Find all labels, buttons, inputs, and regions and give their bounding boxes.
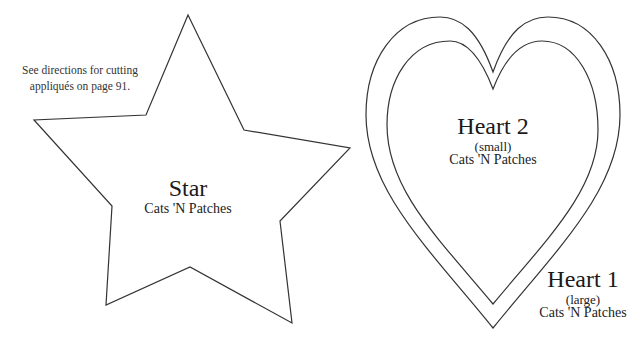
heart-2-label: Heart 2 (small) Cats 'N Patches [423,114,563,167]
star-subtitle: Cats 'N Patches [118,202,258,216]
star-label: Star Cats 'N Patches [118,176,258,216]
heart-1-subtitle: Cats 'N Patches [523,306,643,320]
heart-1-label: Heart 1 (large) Cats 'N Patches [523,267,643,320]
heart-2-title: Heart 2 [423,114,563,138]
cutting-directions-note: See directions for cutting appliqués on … [10,62,150,94]
heart-2-subtitle: Cats 'N Patches [423,153,563,167]
heart-2-outline [387,41,598,304]
note-line-1: See directions for cutting [10,62,150,78]
note-line-2: appliqués on page 91. [10,78,150,94]
heart-1-title: Heart 1 [523,267,643,291]
star-title: Star [118,176,258,200]
